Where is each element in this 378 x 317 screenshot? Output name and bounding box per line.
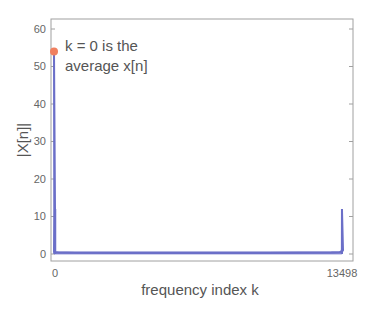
x-tick-label-end: 13498	[327, 267, 358, 279]
y-tick-label-30: 30	[34, 135, 46, 147]
y-tick-label-50: 50	[34, 60, 46, 72]
spectrum-chart: 0 10 20 30 40 50 60 0 13498 frequency in…	[0, 0, 378, 317]
spectrum-series	[54, 52, 343, 255]
y-tick-label-10: 10	[34, 210, 46, 222]
y-axis-tick-labels: 0 10 20 30 40 50 60	[34, 23, 46, 260]
y-tick-label-40: 40	[34, 98, 46, 110]
annotation-line-1: k = 0 is the	[65, 37, 138, 54]
plot-frame	[51, 19, 353, 261]
x-tick-label-0: 0	[52, 267, 58, 279]
dc-component-marker	[50, 48, 58, 56]
annotation-line-2: average x[n]	[65, 57, 148, 74]
y-axis-label: |X[n]|	[14, 123, 31, 157]
x-axis-label: frequency index k	[141, 281, 259, 298]
y-tick-label-20: 20	[34, 173, 46, 185]
y-tick-label-0: 0	[40, 248, 46, 260]
y-tick-label-60: 60	[34, 23, 46, 35]
